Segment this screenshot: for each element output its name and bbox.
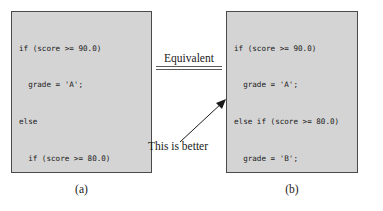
code-line: else [19, 116, 151, 128]
code-listing-a: if (score >= 90.0) grade = 'A'; else if … [12, 12, 151, 173]
rule-line-top [156, 66, 222, 67]
code-line: grade = 'A'; [19, 79, 151, 91]
annotation-label: This is better [148, 140, 208, 152]
caption-b: (b) [226, 183, 358, 195]
code-line: grade = 'A'; [234, 79, 357, 91]
code-line: if (score >= 80.0) [19, 153, 151, 165]
arrow-up-right-icon [178, 98, 228, 144]
figure-container: if (score >= 90.0) grade = 'A'; else if … [0, 0, 383, 211]
caption-a: (a) [11, 183, 152, 195]
equivalent-label: Equivalent [155, 52, 223, 65]
code-box-b: if (score >= 90.0) grade = 'A'; else if … [226, 11, 358, 173]
code-line: else if (score >= 80.0) [234, 116, 357, 128]
code-listing-b: if (score >= 90.0) grade = 'A'; else if … [227, 12, 357, 173]
equivalence-double-rule [155, 66, 223, 70]
code-line: grade = 'B'; [234, 153, 357, 165]
code-line: if (score >= 90.0) [19, 43, 151, 55]
code-line: if (score >= 90.0) [234, 43, 357, 55]
rule-line-bottom [156, 69, 222, 70]
code-box-a: if (score >= 90.0) grade = 'A'; else if … [11, 11, 152, 173]
equivalence-marker: Equivalent [155, 52, 223, 72]
